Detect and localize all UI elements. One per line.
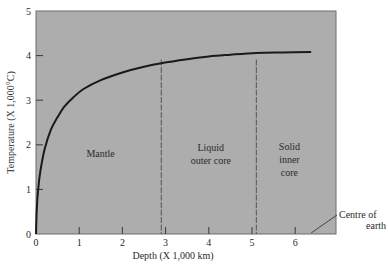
x-tick-label: 1	[77, 237, 82, 248]
x-axis-label: Depth (X 1,000 km)	[132, 250, 213, 262]
region-label: inner	[279, 154, 300, 165]
region-label: Mantle	[86, 148, 115, 159]
region-label: outer core	[191, 155, 232, 166]
x-tick-label: 2	[120, 237, 125, 248]
region-label: Solid	[279, 141, 300, 152]
x-tick-label: 0	[34, 237, 39, 248]
region-label: Liquid	[197, 142, 224, 153]
plot-area	[36, 11, 336, 234]
region-label: core	[281, 167, 299, 178]
y-tick-label: 3	[26, 95, 31, 106]
y-tick-label: 2	[26, 139, 31, 150]
annotation-text: Centre of	[339, 209, 377, 220]
y-tick-label: 5	[26, 6, 31, 17]
x-tick-label: 6	[293, 237, 298, 248]
y-tick-label: 0	[26, 229, 31, 240]
x-tick-label: 4	[206, 237, 211, 248]
x-tick-label: 5	[250, 237, 255, 248]
y-tick-label: 1	[26, 184, 31, 195]
y-axis-label: Temperature (X 1,000°C)	[5, 71, 17, 173]
y-tick-label: 4	[26, 50, 31, 61]
chart: 0123450123456MantleLiquidouter coreSolid…	[0, 0, 388, 270]
annotation-text: earth	[366, 220, 386, 231]
x-tick-label: 3	[163, 237, 168, 248]
